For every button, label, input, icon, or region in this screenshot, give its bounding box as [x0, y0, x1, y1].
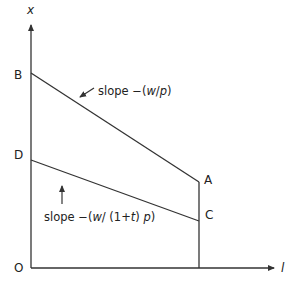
lower-slope-label: slope −(w/ (1+t) p) [44, 210, 155, 224]
upper-slope-label: slope −(w/p) [98, 84, 171, 98]
origin-label: O [14, 261, 23, 275]
diagram-canvas: x l O B D A C slope −(w/p) slope −(w/ (1… [0, 0, 300, 287]
point-label-C: C [205, 208, 213, 222]
point-label-A: A [204, 173, 213, 187]
budget-constraint-diagram: x l O B D A C slope −(w/p) slope −(w/ (1… [0, 0, 300, 287]
point-label-B: B [14, 68, 22, 82]
y-axis-label: x [26, 3, 35, 17]
point-label-D: D [14, 148, 23, 162]
x-axis-label: l [281, 261, 285, 275]
upper-slope-pointer-arrow [80, 88, 94, 97]
